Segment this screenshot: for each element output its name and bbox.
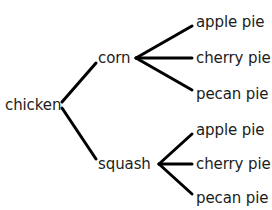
squash-edges [159, 134, 192, 194]
edge-corn-to-pecan-pie [136, 58, 192, 90]
node-label-corn: corn [98, 51, 130, 66]
edge-chicken-to-squash [62, 108, 96, 159]
leaf-label-corn-pecan-pie: pecan pie [196, 87, 268, 102]
node-label-chicken: chicken [5, 98, 61, 113]
edge-corn-to-apple-pie [136, 26, 192, 58]
edge-squash-to-apple-pie [159, 134, 192, 164]
leaf-label-squash-apple-pie: apple pie [196, 123, 264, 138]
edge-chicken-to-corn [62, 63, 96, 102]
corn-edges [136, 26, 192, 90]
node-label-squash: squash [98, 157, 151, 172]
tree-diagram-canvas: chicken corn squash apple pie cherry pie… [0, 0, 272, 210]
leaf-label-squash-cherry-pie: cherry pie [196, 157, 271, 172]
leaf-label-corn-apple-pie: apple pie [196, 15, 264, 30]
leaf-label-corn-cherry-pie: cherry pie [196, 51, 271, 66]
edge-squash-to-pecan-pie [159, 164, 192, 194]
root-edges [62, 63, 96, 159]
leaf-label-squash-pecan-pie: pecan pie [196, 191, 268, 206]
